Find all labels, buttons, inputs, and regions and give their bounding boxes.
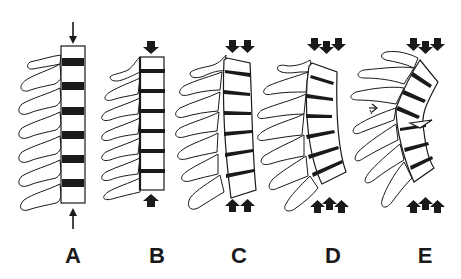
block-arrow-up-icon bbox=[418, 197, 433, 210]
open-arrow-right-icon bbox=[369, 104, 377, 114]
block-arrow-up-icon bbox=[240, 199, 255, 212]
block-arrow-up-icon bbox=[225, 199, 240, 212]
block-arrow-up-icon bbox=[430, 200, 445, 213]
block-arrow-up-icon bbox=[143, 194, 159, 207]
panel-label-b: B bbox=[142, 243, 172, 269]
panel-b-spine bbox=[102, 41, 165, 207]
block-arrow-down-icon bbox=[225, 40, 240, 53]
block-arrows-up bbox=[406, 197, 445, 213]
spinous-processes bbox=[19, 55, 61, 210]
block-arrow-up-icon bbox=[406, 200, 421, 213]
thin-arrow-down-icon bbox=[69, 22, 77, 44]
panel-d-spine bbox=[258, 38, 349, 213]
block-arrow-down-icon bbox=[331, 38, 346, 51]
spinous-processes bbox=[176, 55, 226, 209]
block-arrow-up-icon bbox=[310, 200, 325, 213]
spinous-processes bbox=[102, 57, 140, 200]
thin-arrow-up-icon bbox=[69, 208, 77, 229]
block-arrow-down-icon bbox=[430, 38, 445, 51]
block-arrow-down-icon bbox=[240, 40, 255, 53]
spine-loading-diagram: A B C D E bbox=[0, 0, 461, 279]
block-arrow-down-icon bbox=[418, 41, 433, 54]
panel-label-d: D bbox=[318, 243, 348, 269]
block-arrows-up bbox=[225, 199, 255, 212]
panel-a-spine bbox=[19, 22, 85, 229]
block-arrows-up bbox=[310, 197, 349, 213]
panel-label-c: C bbox=[224, 243, 254, 269]
panel-label-a: A bbox=[58, 243, 88, 269]
block-arrow-up-icon bbox=[334, 200, 349, 213]
block-arrow-down-icon bbox=[319, 41, 334, 54]
block-arrow-down-icon bbox=[143, 41, 159, 54]
diagram-canvas bbox=[0, 0, 461, 279]
block-arrows-down bbox=[406, 38, 445, 54]
block-arrow-down-icon bbox=[406, 38, 421, 51]
panel-e-spine bbox=[351, 38, 445, 213]
block-arrows-down bbox=[225, 40, 255, 53]
panel-label-e: E bbox=[410, 243, 440, 269]
block-arrows-down bbox=[307, 38, 346, 54]
block-arrow-up-icon bbox=[322, 197, 337, 210]
panel-c-spine bbox=[176, 40, 256, 212]
block-arrow-down-icon bbox=[307, 38, 322, 51]
